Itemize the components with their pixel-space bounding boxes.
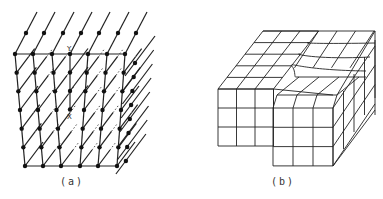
panel-b-block — [218, 31, 375, 166]
panel-b-label: (b) — [271, 176, 295, 187]
marker-y: Y — [66, 45, 72, 53]
marker-x: X — [67, 113, 72, 121]
panel-a-label: (a) — [60, 176, 84, 187]
panel-a-lattice — [13, 12, 155, 174]
diagram-canvas: Y X — [0, 0, 383, 199]
